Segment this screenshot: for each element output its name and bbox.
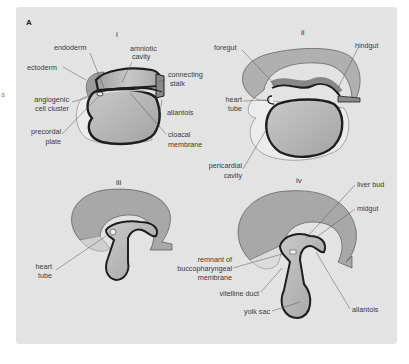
stage-ii-embryo — [242, 48, 360, 160]
label-cloacal-1: cloacal — [168, 131, 190, 139]
label-vitelline-duct: vitelline duct — [200, 290, 259, 298]
label-endoderm: endoderm — [54, 44, 86, 52]
stage-iii-embryo — [72, 189, 172, 280]
label-remnant-2: buccopharyngeal — [174, 265, 232, 273]
label-precordal-1: precordal — [25, 128, 61, 136]
label-allantois-iv: allantois — [352, 306, 378, 314]
label-heart-tube-ii-1: heart — [212, 96, 242, 104]
label-yolk-sac: yolk sac — [230, 308, 270, 316]
label-angiogenic-1: angiogenic — [25, 96, 69, 104]
label-angiogenic-2: cell cluster — [25, 105, 69, 113]
panel-letter: A — [26, 18, 32, 27]
label-connecting-stalk-2: stalk — [170, 80, 185, 88]
label-allantois-i: allantois — [167, 109, 193, 117]
label-hindgut: hindgut — [355, 42, 379, 50]
stage-i-embryo — [76, 68, 164, 144]
label-connecting-stalk-1: connecting — [168, 71, 203, 79]
label-heart-tube-iii-1: heart — [26, 263, 52, 271]
label-precordal-2: plate — [25, 138, 61, 146]
label-amniotic-cavity-2: cavity — [132, 53, 150, 61]
stage-iv-embryo — [238, 191, 356, 318]
label-liver-bud: liver bud — [357, 181, 384, 189]
label-remnant-3: membrane — [174, 274, 232, 282]
label-heart-tube-ii-2: tube — [212, 105, 242, 113]
label-heart-tube-iii-2: tube — [26, 272, 52, 280]
label-ectoderm: ectoderm — [27, 64, 57, 72]
label-cloacal-2: membrane — [168, 141, 202, 149]
stage-numeral-iii: iii — [116, 178, 121, 187]
label-pericardial-1: pericardial — [200, 162, 242, 170]
label-midgut: midgut — [357, 205, 379, 213]
label-pericardial-2: cavity — [200, 172, 242, 180]
label-remnant-1: remnant of — [174, 256, 232, 264]
embryo-folding-diagram — [0, 0, 409, 364]
label-foregut: foregut — [214, 44, 236, 52]
stage-numeral-i: i — [116, 30, 118, 39]
stage-numeral-ii: ii — [301, 28, 305, 37]
stage-numeral-iv: iv — [296, 176, 302, 185]
